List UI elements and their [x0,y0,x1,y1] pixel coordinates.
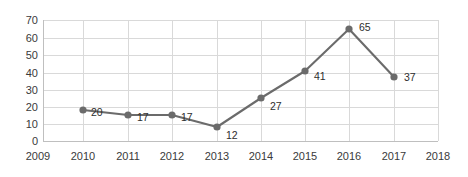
x-tick-label-2015: 2015 [293,150,317,162]
chart-canvas: 010203040506070 200920102011201220132014… [0,0,468,177]
data-point-2013 [213,123,220,130]
x-tick-label-2010: 2010 [71,150,95,162]
y-tick-label-60: 60 [26,32,38,44]
data-label-2013: 12 [226,129,238,141]
y-tick-label-40: 40 [26,67,38,79]
y-tick-label-0: 0 [32,135,38,147]
y-tick-label-50: 50 [26,49,38,61]
x-tick-label-2018: 2018 [426,150,450,162]
y-tick-label-70: 70 [26,14,38,26]
x-tick-label-2012: 2012 [160,150,184,162]
data-label-2017: 37 [404,71,416,83]
data-label-2012: 17 [181,111,193,123]
data-point-2017 [390,73,397,80]
x-tick-label-2014: 2014 [249,150,273,162]
data-label-2015: 41 [314,70,326,82]
data-point-2014 [257,94,264,101]
data-point-2015 [301,67,308,74]
data-label-2010: 20 [91,106,103,118]
data-label-2011: 17 [137,111,149,123]
y-tick-label-20: 20 [26,101,38,113]
line-chart-figure: 010203040506070 200920102011201220132014… [0,0,468,177]
data-point-2010 [79,106,86,113]
data-label-2016: 65 [359,21,371,33]
x-tick-label-2017: 2017 [382,150,406,162]
data-point-2016 [345,25,352,32]
data-point-2012 [168,111,175,118]
data-label-2014: 27 [270,100,282,112]
x-tick-label-2013: 2013 [205,150,229,162]
y-tick-label-30: 30 [26,84,38,96]
y-tick-label-10: 10 [26,118,38,130]
x-tick-label-2009: 2009 [26,150,50,162]
x-tick-label-2011: 2011 [116,150,140,162]
x-tick-label-2016: 2016 [337,150,361,162]
data-point-2011 [124,111,131,118]
